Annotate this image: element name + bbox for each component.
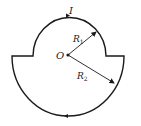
radius-r2-arrow: [68, 55, 114, 83]
radius-r2-label: R2: [76, 71, 88, 82]
current-loop-diagram: I O R1 R2: [0, 0, 141, 126]
arrow-bottom-icon: [64, 114, 68, 118]
r2-sub: 2: [84, 75, 88, 82]
current-label: I: [68, 5, 74, 16]
radius-r1-label: R1: [72, 34, 84, 45]
current-loop-path: [12, 17, 124, 116]
center-label: O: [56, 50, 64, 61]
r1-sub: 1: [80, 38, 84, 45]
